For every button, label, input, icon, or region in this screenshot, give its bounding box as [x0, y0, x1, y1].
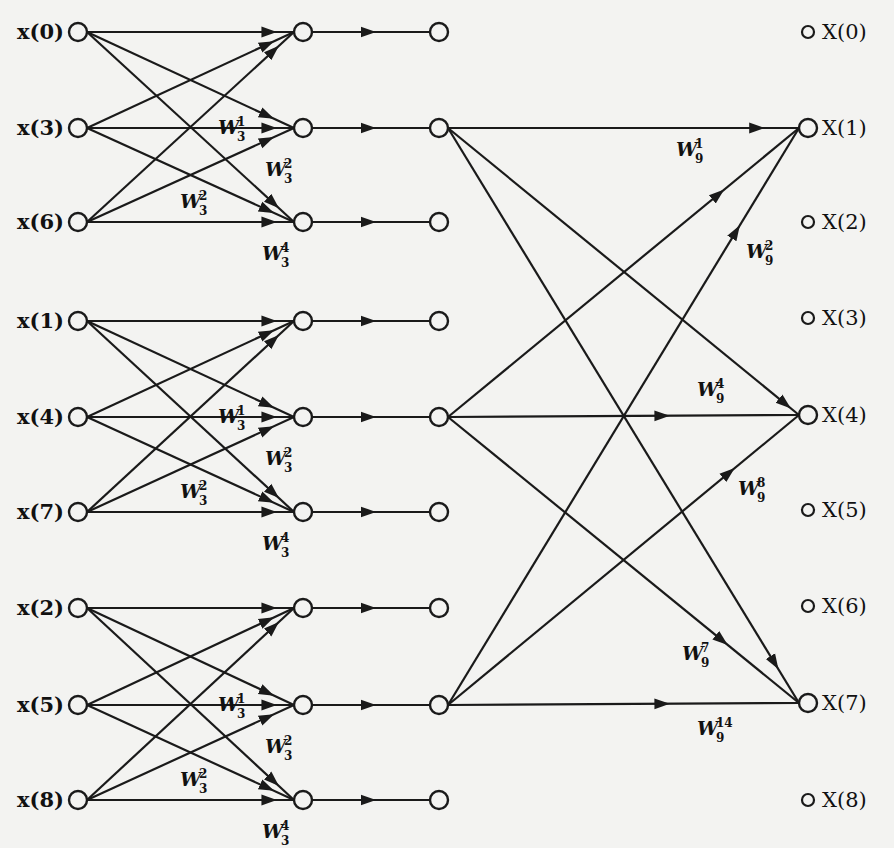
output-label: X(8) [822, 788, 867, 812]
twiddle-base-index: 9 [695, 152, 703, 166]
output-node [802, 216, 814, 228]
twiddle-base-index: 3 [237, 130, 245, 144]
output-label: X(1) [822, 116, 867, 140]
output-label: X(5) [822, 498, 867, 522]
twiddle-base-index: 3 [284, 172, 292, 186]
twiddle-exponent: 8 [757, 476, 765, 490]
twiddle-exponent: 2 [284, 734, 292, 748]
stage1-node [294, 696, 312, 714]
output-label: X(7) [822, 691, 867, 715]
twiddle-base-index: 9 [765, 254, 773, 268]
stage1-node [294, 119, 312, 137]
input-node [69, 503, 87, 521]
stage1-node [294, 599, 312, 617]
twiddle-base-index: 3 [281, 546, 289, 560]
stage2-node [430, 119, 448, 137]
stage2-node [430, 23, 448, 41]
twiddle-base-index: 3 [237, 707, 245, 721]
fft-flow-graph: W13W23W23W43W13W23W23W43W13W23W23W43W19W… [0, 0, 894, 848]
input-label: x(6) [17, 209, 64, 234]
twiddle-exponent: 7 [701, 641, 709, 655]
output-label: X(0) [822, 20, 867, 44]
input-label: x(2) [17, 595, 64, 620]
input-node [69, 599, 87, 617]
input-label: x(3) [17, 115, 64, 140]
twiddle-base-index: 9 [757, 491, 765, 505]
input-label: x(1) [17, 308, 64, 333]
stage1-node [294, 23, 312, 41]
input-node [69, 791, 87, 809]
twiddle-base-index: 3 [284, 461, 292, 475]
twiddle-base-index: 3 [284, 749, 292, 763]
twiddle-exponent: 1 [695, 137, 703, 151]
output-node [802, 504, 814, 516]
twiddle-exponent: 2 [284, 157, 292, 171]
twiddle-exponent: 2 [199, 479, 207, 493]
input-label: x(8) [17, 787, 64, 812]
output-node [799, 119, 817, 137]
stage2-node [430, 503, 448, 521]
output-node [802, 794, 814, 806]
twiddle-base-index: 3 [199, 204, 207, 218]
twiddle-exponent: 1 [237, 404, 245, 418]
twiddle-exponent: 4 [281, 531, 289, 545]
output-node [802, 600, 814, 612]
input-node [69, 119, 87, 137]
input-label: x(4) [17, 404, 64, 429]
input-label: x(7) [17, 499, 64, 524]
stage2-node [430, 312, 448, 330]
output-node [799, 694, 817, 712]
input-node [69, 312, 87, 330]
twiddle-base-index: 3 [199, 494, 207, 508]
stage1-node [294, 791, 312, 809]
twiddle-exponent: 4 [281, 819, 289, 833]
output-label: X(3) [822, 306, 867, 330]
output-label: X(6) [822, 594, 867, 618]
twiddle-base-index: 3 [237, 419, 245, 433]
twiddle-exponent: 4 [716, 377, 724, 391]
stage1-node [294, 312, 312, 330]
twiddle-exponent: 1 [237, 692, 245, 706]
twiddle-base-index: 9 [716, 392, 724, 406]
stage2-node [430, 408, 448, 426]
twiddle-exponent: 4 [281, 241, 289, 255]
twiddle-base-index: 3 [281, 834, 289, 848]
stage2-node [430, 213, 448, 231]
stage2-node [430, 599, 448, 617]
labels: W13W23W23W43W13W23W23W43W13W23W23W43W19W… [17, 19, 867, 848]
twiddle-base-index: 9 [701, 656, 709, 670]
twiddle-exponent: 2 [284, 446, 292, 460]
output-node [802, 312, 814, 324]
output-label: X(4) [822, 403, 867, 427]
input-label: x(0) [17, 19, 64, 44]
input-node [69, 696, 87, 714]
stage1-node [294, 503, 312, 521]
input-node [69, 213, 87, 231]
stage1-node [294, 213, 312, 231]
twiddle-base-index: 3 [281, 256, 289, 270]
input-label: x(5) [17, 692, 64, 717]
twiddle-exponent: 14 [716, 716, 733, 730]
twiddle-exponent: 2 [199, 189, 207, 203]
twiddle-exponent: 1 [237, 115, 245, 129]
stage2-node [430, 791, 448, 809]
input-node [69, 408, 87, 426]
output-label: X(2) [822, 210, 867, 234]
stage1-node [294, 408, 312, 426]
twiddle-exponent: 2 [199, 767, 207, 781]
twiddle-base-index: 9 [716, 731, 724, 745]
twiddle-exponent: 2 [765, 239, 773, 253]
output-node [799, 406, 817, 424]
output-node [802, 26, 814, 38]
input-node [69, 23, 87, 41]
combine-edge [448, 703, 799, 705]
stage2-node [430, 696, 448, 714]
twiddle-base-index: 3 [199, 782, 207, 796]
